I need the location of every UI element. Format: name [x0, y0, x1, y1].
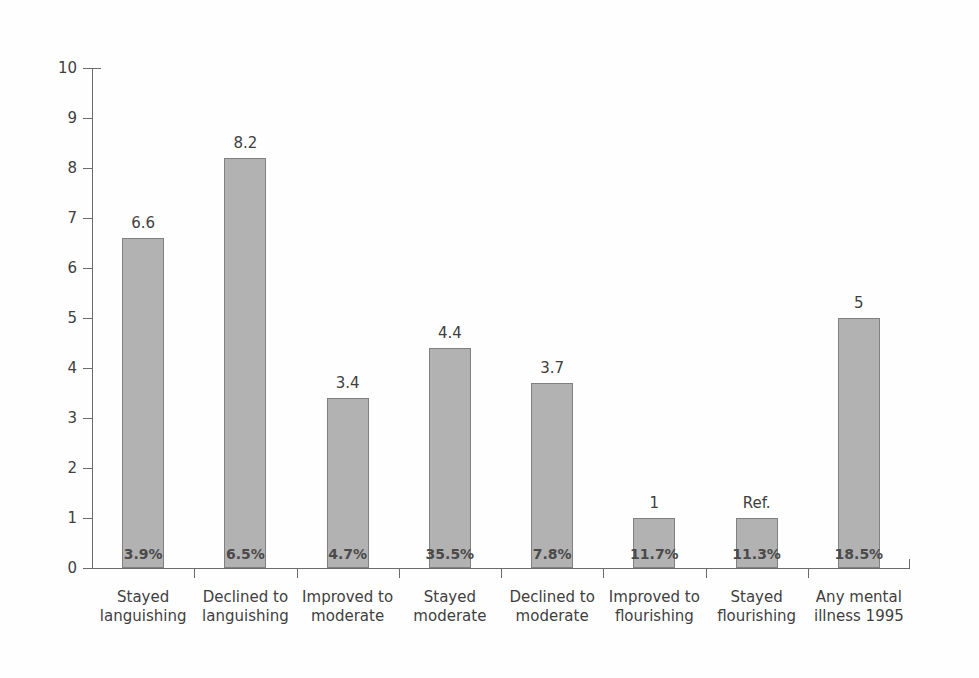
category-label-line: languishing [194, 607, 296, 626]
y-axis-line [92, 68, 93, 569]
category-label-line: moderate [399, 607, 501, 626]
y-axis-tick [83, 518, 92, 519]
x-axis-tick [399, 568, 400, 578]
bar-value-label: 1 [604, 496, 704, 511]
bar-chart: 012345678910 6.68.23.44.43.71Ref.5 3.9%6… [0, 0, 979, 678]
bar-value-label: 6.6 [93, 216, 193, 231]
category-label-line: Stayed [706, 588, 808, 607]
x-axis-tick [194, 568, 195, 578]
category-label-line: flourishing [706, 607, 808, 626]
x-axis-category-label: Declined tolanguishing [194, 588, 296, 626]
x-axis-category-label: Stayedflourishing [706, 588, 808, 626]
y-axis-tick-label: 6 [51, 261, 77, 276]
y-axis-tick-label: 4 [51, 361, 77, 376]
bar-percent-label: 7.8% [502, 547, 602, 561]
x-axis-end-cap [909, 559, 910, 569]
category-label-line: Any mental [808, 588, 910, 607]
bar [838, 318, 880, 568]
y-axis-tick-label: 1 [51, 511, 77, 526]
y-axis-tick-label: 10 [51, 61, 77, 76]
x-axis-category-label: Stayedmoderate [399, 588, 501, 626]
x-axis-category-label: Improved toflourishing [603, 588, 705, 626]
y-axis-tick [83, 318, 92, 319]
bar [122, 238, 164, 568]
y-axis-tick [83, 568, 92, 569]
y-axis-tick [83, 118, 92, 119]
category-label-line: illness 1995 [808, 607, 910, 626]
y-axis-tick-labels: 012345678910 [45, 0, 77, 678]
bar [327, 398, 369, 568]
y-axis-tick-label: 5 [51, 311, 77, 326]
y-axis-tick [83, 68, 92, 69]
x-axis-tick [297, 568, 298, 578]
bar-value-label: Ref. [707, 496, 807, 511]
category-label-line: Improved to [297, 588, 399, 607]
x-axis-tick [808, 568, 809, 578]
category-label-line: moderate [297, 607, 399, 626]
x-axis-category-label: Improved tomoderate [297, 588, 399, 626]
bar-percent-label: 11.3% [707, 547, 807, 561]
y-axis-tick-label: 3 [51, 411, 77, 426]
bar-percent-label: 4.7% [298, 547, 398, 561]
bar [224, 158, 266, 568]
bar-percent-label: 11.7% [604, 547, 704, 561]
y-axis-tick [83, 368, 92, 369]
x-axis-category-label: Stayedlanguishing [92, 588, 194, 626]
x-axis-tick [706, 568, 707, 578]
y-axis-tick [83, 218, 92, 219]
y-axis-tick [83, 268, 92, 269]
category-label-line: Declined to [501, 588, 603, 607]
category-label-line: Declined to [194, 588, 296, 607]
bar-value-label: 8.2 [195, 136, 295, 151]
y-axis-tick [83, 418, 92, 419]
bar-value-label: 3.4 [298, 376, 398, 391]
x-axis-tick [501, 568, 502, 578]
y-axis-top-cap [92, 68, 101, 69]
category-label-line: Improved to [603, 588, 705, 607]
category-label-line: Stayed [399, 588, 501, 607]
bar [531, 383, 573, 568]
bar [429, 348, 471, 568]
x-axis-category-label: Declined tomoderate [501, 588, 603, 626]
y-axis-tick-label: 0 [51, 561, 77, 576]
x-axis-category-label: Any mentalillness 1995 [808, 588, 910, 626]
bar-percent-label: 3.9% [93, 547, 193, 561]
category-label-line: moderate [501, 607, 603, 626]
bar-percent-label: 35.5% [400, 547, 500, 561]
y-axis-tick-label: 9 [51, 111, 77, 126]
y-axis-tick [83, 468, 92, 469]
y-axis-tick-label: 2 [51, 461, 77, 476]
bar-percent-label: 6.5% [195, 547, 295, 561]
category-label-line: languishing [92, 607, 194, 626]
category-label-line: Stayed [92, 588, 194, 607]
y-axis-tick [83, 168, 92, 169]
bar-value-label: 3.7 [502, 361, 602, 376]
bar-value-label: 5 [809, 296, 909, 311]
y-axis-tick-label: 7 [51, 211, 77, 226]
x-axis-tick [603, 568, 604, 578]
y-axis-tick-label: 8 [51, 161, 77, 176]
category-label-line: flourishing [603, 607, 705, 626]
bar-percent-label: 18.5% [809, 547, 909, 561]
bar-value-label: 4.4 [400, 326, 500, 341]
